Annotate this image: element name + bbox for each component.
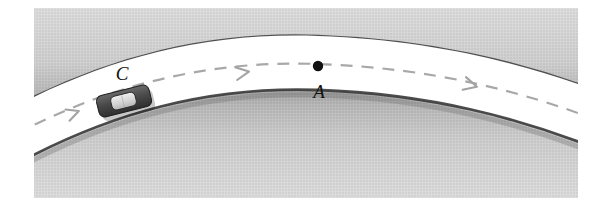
figure-canvas: C A: [0, 0, 606, 203]
road-curve-figure: C A: [0, 0, 606, 203]
point-a-marker: [313, 61, 323, 71]
car-label: C: [116, 63, 129, 84]
point-a-label: A: [311, 81, 325, 102]
